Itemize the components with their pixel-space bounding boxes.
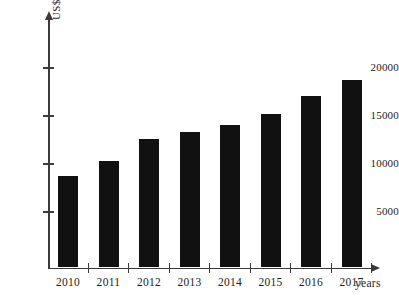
- y-tick-label: 5000: [357, 206, 399, 217]
- x-tick-label-2014: 2014: [207, 276, 253, 289]
- y-tick-mark: [43, 211, 54, 212]
- bar-2015: [261, 114, 281, 267]
- x-tick-mark: [250, 263, 251, 273]
- bar-2017: [342, 80, 362, 267]
- y-tick-label: 15000: [357, 110, 399, 121]
- x-tick-mark: [290, 263, 291, 273]
- y-tick-mark: [43, 115, 54, 116]
- bar-2012: [139, 139, 159, 267]
- bar-2013: [180, 132, 200, 267]
- x-tick-label-2013: 2013: [167, 276, 213, 289]
- x-tick-label-2017: 2017: [329, 276, 375, 289]
- y-tick-mark: [43, 163, 54, 164]
- x-tick-mark: [371, 263, 372, 273]
- x-tick-label-2012: 2012: [126, 276, 172, 289]
- bar-2010: [58, 176, 78, 267]
- x-tick-label-2015: 2015: [248, 276, 294, 289]
- bar-2014: [220, 125, 240, 268]
- y-axis-line: [48, 18, 50, 269]
- x-tick-mark: [88, 263, 89, 273]
- x-tick-label-2011: 2011: [86, 276, 132, 289]
- bar-chart: US$M years 5000100001500020000 201020112…: [0, 0, 399, 305]
- y-tick-label: 20000: [357, 62, 399, 73]
- x-tick-mark: [128, 263, 129, 273]
- x-tick-mark: [209, 263, 210, 273]
- x-tick-mark: [331, 263, 332, 273]
- bar-2016: [301, 96, 321, 268]
- x-axis-line: [48, 268, 378, 270]
- x-tick-label-2010: 2010: [45, 276, 91, 289]
- x-tick-mark: [169, 263, 170, 273]
- y-tick-mark: [43, 67, 54, 68]
- bar-2011: [99, 161, 119, 267]
- x-tick-label-2016: 2016: [288, 276, 334, 289]
- y-tick-label: 10000: [357, 158, 399, 169]
- y-axis-title: US$M: [51, 0, 62, 20]
